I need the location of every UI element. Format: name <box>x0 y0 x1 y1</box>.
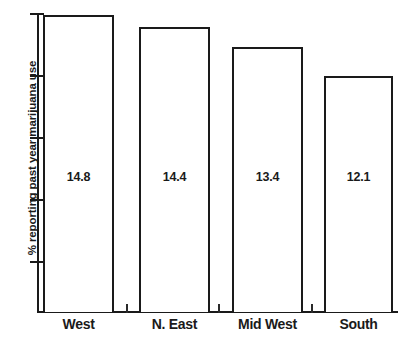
bar-south[interactable]: 12.1 <box>324 76 393 312</box>
x-axis-minor-tick <box>311 304 313 313</box>
bar-value-label: 14.4 <box>141 170 208 184</box>
x-axis-label-west: West <box>43 316 114 332</box>
bar-west[interactable]: 14.8 <box>43 15 114 312</box>
x-axis-label-south: South <box>324 316 393 332</box>
y-axis-tick <box>30 199 44 201</box>
y-axis-tick <box>30 13 44 15</box>
x-axis-label-mid-west: Mid West <box>232 316 303 332</box>
x-axis-label-n-east: N. East <box>139 316 210 332</box>
y-axis-tick <box>30 137 44 139</box>
bar-value-label: 12.1 <box>326 170 391 184</box>
bar-n-east[interactable]: 14.4 <box>139 27 210 312</box>
y-axis-tick <box>30 261 44 263</box>
y-axis-tick <box>30 75 44 77</box>
bar-chart: % reporting past year marijuana use 14.8… <box>0 0 406 342</box>
y-axis-line <box>37 13 39 313</box>
x-axis-minor-tick <box>126 304 128 313</box>
bar-value-label: 14.8 <box>45 170 112 184</box>
bar-value-label: 13.4 <box>234 170 301 184</box>
x-axis-minor-tick <box>218 304 220 313</box>
bar-mid-west[interactable]: 13.4 <box>232 47 303 312</box>
